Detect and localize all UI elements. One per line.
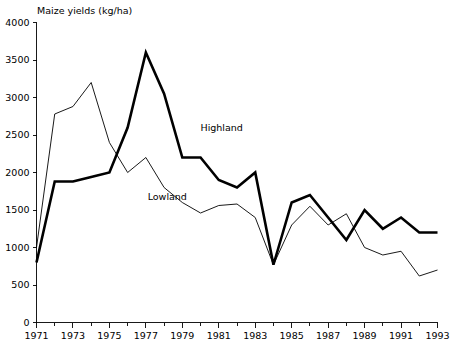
y-tick-label: 1000: [5, 242, 29, 253]
y-tick-label: 1500: [5, 204, 29, 215]
series-line-lowland: [37, 83, 438, 277]
x-tick-label: 1983: [243, 330, 267, 341]
x-tick-label: 1989: [352, 330, 376, 341]
series-annotations: HighlandLowland: [148, 122, 243, 202]
x-tick-label: 1991: [389, 330, 413, 341]
x-tick-label: 1981: [207, 330, 231, 341]
series-label-lowland: Lowland: [148, 191, 187, 202]
x-tick-label: 1985: [280, 330, 304, 341]
plot-area: 05001000150020002500300035004000 1971197…: [5, 5, 449, 341]
y-tick-label: 3500: [5, 54, 29, 65]
x-axis: 1971197319751977197919811983198519871989…: [24, 323, 449, 341]
series-line-highland: [37, 53, 438, 265]
y-tick-label: 4000: [5, 17, 29, 28]
y-tick-label: 2000: [5, 167, 29, 178]
data-series-group: [37, 53, 438, 277]
x-tick-label: 1973: [61, 330, 85, 341]
chart-canvas: 05001000150020002500300035004000 1971197…: [0, 0, 452, 351]
x-tick-label: 1993: [425, 330, 449, 341]
x-tick-label: 1987: [316, 330, 340, 341]
y-tick-label: 2500: [5, 129, 29, 140]
x-tick-label: 1975: [97, 330, 121, 341]
x-tick-label: 1979: [170, 330, 194, 341]
chart-title: Maize yields (kg/ha): [37, 5, 132, 16]
series-label-highland: Highland: [201, 122, 243, 133]
y-axis: 05001000150020002500300035004000: [5, 17, 36, 328]
y-tick-label: 500: [11, 279, 29, 290]
y-tick-label: 3000: [5, 92, 29, 103]
x-tick-label: 1977: [134, 330, 158, 341]
y-tick-label: 0: [23, 317, 29, 328]
maize-yields-chart: 05001000150020002500300035004000 1971197…: [0, 0, 452, 351]
x-tick-label: 1971: [24, 330, 48, 341]
